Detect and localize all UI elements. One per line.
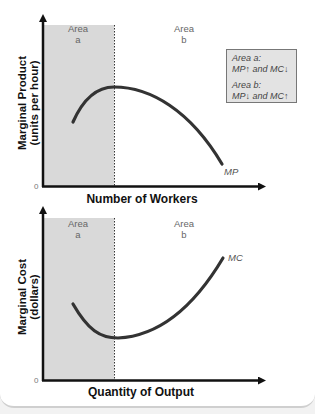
x-axis-title: Quantity of Output [88, 385, 194, 399]
origin-label: 0 [34, 376, 39, 385]
area-a-shading [44, 25, 114, 186]
area-b-letter: b [181, 229, 186, 240]
area-a-letter: a [75, 229, 81, 240]
y-axis-title-line1: Marginal Product [16, 56, 28, 150]
area-b-letter: b [181, 34, 186, 45]
y-axis-title-line1: Marginal Cost [16, 259, 28, 335]
y-axis-title-line2: (units per hour) [28, 60, 40, 145]
area-b-label: Area [174, 23, 195, 34]
area-a-label: Area [68, 218, 89, 229]
area-b-label: Area [174, 218, 195, 229]
origin-label: 0 [34, 182, 39, 191]
mp-chart: 0 Area a Area b MP Number of Workers Mar… [16, 18, 262, 206]
area-a-label: Area [68, 23, 89, 34]
mc-chart: 0 Area a Area b MC Quantity of Output Ma… [16, 210, 262, 399]
legend-area-b-title: Area b: [232, 80, 291, 91]
legend-area-a-title: Area a: [232, 53, 291, 64]
legend-area-b-text: MP↓ and MC↑ [232, 91, 291, 102]
mc-curve-label: MC [228, 252, 243, 263]
area-a-letter: a [75, 34, 81, 45]
legend-box: Area a: MP↑ and MC↓ Area b: MP↓ and MC↑ [226, 49, 297, 103]
legend-area-a-text: MP↑ and MC↓ [232, 64, 291, 75]
figure-page: 0 Area a Area b MP Number of Workers Mar… [0, 0, 315, 408]
x-axis-title: Number of Workers [86, 192, 197, 206]
area-a-shading [44, 218, 114, 380]
mp-curve-label: MP [224, 166, 239, 177]
y-axis-title-line2: (dollars) [28, 274, 40, 320]
